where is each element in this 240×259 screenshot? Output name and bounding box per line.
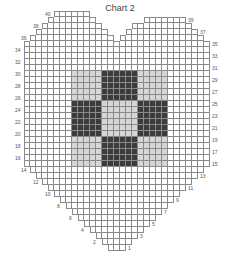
heart-knitting-chart	[0, 0, 240, 259]
row-label-left: 26	[15, 95, 21, 101]
chart-cell	[204, 89, 210, 95]
row-label-right: 21	[212, 125, 218, 131]
chart-cell	[204, 107, 210, 113]
row-label-right: 23	[212, 113, 218, 119]
chart-cell	[204, 119, 210, 125]
chart-cell	[180, 17, 186, 23]
chart-cell	[204, 53, 210, 59]
chart-cell	[204, 149, 210, 155]
chart-cell	[156, 209, 162, 215]
row-label-right: 13	[200, 173, 206, 179]
chart-cell	[120, 245, 126, 251]
chart-cell	[204, 59, 210, 65]
chart-cell	[108, 35, 114, 41]
row-label-right: 5	[152, 221, 155, 227]
row-label-left: 22	[15, 119, 21, 125]
row-label-right: 27	[212, 89, 218, 95]
row-label-left: 14	[21, 167, 27, 173]
row-label-left: 4	[81, 227, 84, 233]
row-label-right: 39	[188, 17, 194, 23]
row-label-left: 38	[33, 23, 39, 29]
row-label-left: 12	[33, 179, 39, 185]
row-label-left: 16	[15, 155, 21, 161]
chart-cell	[204, 71, 210, 77]
chart-cell	[204, 161, 210, 167]
chart-cell	[204, 95, 210, 101]
row-label-right: 17	[212, 149, 218, 155]
chart-cell	[90, 17, 96, 23]
row-label-right: 19	[212, 137, 218, 143]
row-label-left: 28	[15, 83, 21, 89]
chart-cell	[198, 35, 204, 41]
chart-cell	[168, 197, 174, 203]
chart-cell	[192, 173, 198, 179]
row-label-left: 24	[15, 107, 21, 113]
chart-cell	[204, 47, 210, 53]
chart-cell	[204, 125, 210, 131]
chart-cell	[204, 155, 210, 161]
row-label-right: 25	[212, 101, 218, 107]
row-label-right: 9	[176, 197, 179, 203]
chart-cell	[132, 233, 138, 239]
row-label-left: 10	[45, 191, 51, 197]
chart-cell	[204, 83, 210, 89]
chart-cell	[84, 11, 90, 17]
row-label-right: 7	[164, 209, 167, 215]
row-label-right: 29	[212, 77, 218, 83]
row-label-right: 33	[212, 53, 218, 59]
chart-cell	[204, 41, 210, 47]
row-label-right: 35	[212, 41, 218, 47]
chart-cell	[204, 65, 210, 71]
chart-cell	[186, 23, 192, 29]
row-label-left: 40	[45, 11, 51, 17]
chart-cell	[204, 143, 210, 149]
row-label-right: 3	[140, 233, 143, 239]
chart-cell	[204, 77, 210, 83]
row-label-left: 32	[15, 59, 21, 65]
row-label-left: 8	[57, 203, 60, 209]
row-label-right: 11	[188, 185, 193, 191]
chart-cell	[204, 101, 210, 107]
row-label-right: 37	[200, 29, 206, 35]
row-label-left: 2	[93, 239, 96, 245]
chart-cell	[204, 131, 210, 137]
row-label-right: 15	[212, 161, 218, 167]
row-label-left: 36	[21, 35, 27, 41]
chart-cell	[204, 113, 210, 119]
chart-cell	[96, 23, 102, 29]
row-label-right: 31	[212, 65, 218, 71]
row-label-left: 18	[15, 143, 21, 149]
row-label-left: 34	[15, 47, 21, 53]
row-label-right: 1	[128, 245, 131, 251]
chart-cell	[180, 185, 186, 191]
chart-cell	[204, 137, 210, 143]
row-label-left: 30	[15, 71, 21, 77]
row-label-left: 20	[15, 131, 21, 137]
chart-cell	[144, 221, 150, 227]
row-label-left: 6	[69, 215, 72, 221]
chart-cell	[102, 29, 108, 35]
chart-cell	[192, 29, 198, 35]
